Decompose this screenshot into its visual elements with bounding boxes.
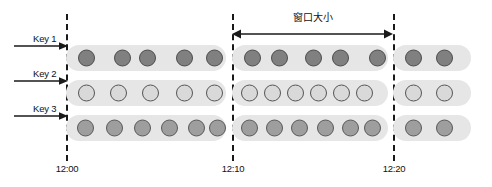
event-dot (134, 120, 151, 137)
event-dot (405, 120, 422, 137)
event-dot (106, 120, 123, 137)
event-group-capsule-key-3-after-window (393, 115, 471, 141)
event-dot (241, 120, 258, 137)
key-marker-key-1: Key 1 (14, 29, 68, 55)
event-dot (77, 120, 94, 137)
event-group-capsule-key-2-inside-window (232, 80, 388, 106)
time-label-1210: 12:10 (222, 163, 244, 174)
window-span-arrow-svg (232, 28, 393, 40)
event-dot (364, 120, 381, 137)
event-dot (333, 85, 350, 102)
event-dot (266, 120, 283, 137)
event-dot (244, 50, 261, 67)
event-dot (264, 85, 281, 102)
event-dot (78, 85, 95, 102)
event-dot (176, 50, 193, 67)
event-dot (436, 50, 453, 67)
event-dot (436, 120, 453, 137)
event-dot (206, 50, 223, 67)
event-dot (176, 85, 193, 102)
event-group-capsule-key-1-before-window (66, 45, 226, 71)
event-dot (271, 50, 288, 67)
event-dot (405, 85, 422, 102)
window-size-span-arrow (232, 26, 393, 38)
time-label-1200: 12:00 (56, 163, 78, 174)
event-group-capsule-key-2-before-window (66, 80, 226, 106)
event-group-capsule-key-3-before-window (66, 115, 226, 141)
event-dot (78, 50, 95, 67)
event-group-capsule-key-1-after-window (393, 45, 471, 71)
event-dot (110, 85, 127, 102)
event-dot (356, 85, 373, 102)
event-dot (114, 50, 131, 67)
event-dot (405, 50, 422, 67)
key-arrow-key-3 (14, 112, 68, 120)
key-arrow-key-1 (14, 42, 68, 50)
event-dot (287, 85, 304, 102)
event-dot (241, 85, 258, 102)
event-dot (305, 50, 322, 67)
event-dot (206, 85, 223, 102)
event-dot (291, 120, 308, 137)
event-dot (139, 50, 156, 67)
event-dot (161, 120, 178, 137)
sliding-window-diagram: 窗口大小 Key 1Key 2Key 3 12:0012:1012:20 (0, 0, 492, 187)
event-dot (209, 120, 226, 137)
key-marker-key-3: Key 3 (14, 99, 68, 125)
event-dot (342, 120, 359, 137)
event-group-capsule-key-3-inside-window (232, 115, 388, 141)
event-dot (332, 50, 349, 67)
event-group-capsule-key-1-inside-window (232, 45, 388, 71)
event-dot (369, 50, 386, 67)
event-dot (142, 85, 159, 102)
event-dot (436, 85, 453, 102)
event-dot (310, 85, 327, 102)
time-label-1220: 12:20 (383, 163, 405, 174)
event-group-capsule-key-2-after-window (393, 80, 471, 106)
event-dot (317, 120, 334, 137)
key-arrow-key-2 (14, 77, 68, 85)
window-size-label: 窗口大小 (293, 9, 333, 24)
key-marker-key-2: Key 2 (14, 64, 68, 90)
event-dot (188, 120, 205, 137)
